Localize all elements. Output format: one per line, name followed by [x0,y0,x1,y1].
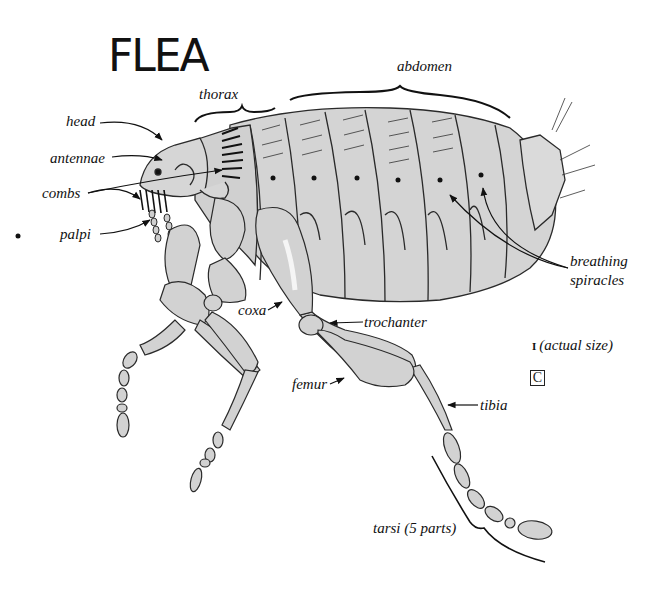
label-combs: combs [42,185,80,202]
head-arrow [100,122,162,140]
scale-icon: I [532,340,536,352]
combs-arrow-1 [88,189,140,199]
label-femur: femur [292,376,327,393]
palpi-arrow [100,220,150,234]
stray-dot [16,234,21,239]
coxa-arrow [268,302,282,310]
label-abdomen: abdomen [397,58,452,75]
label-trochanter: trochanter [364,314,427,331]
label-coxa: coxa [238,302,266,319]
label-antennae: antennae [50,150,105,167]
flea-illustration [0,0,662,589]
label-head: head [66,113,95,130]
femur-arrow [330,378,344,384]
actual-size-label: (actual size) [539,337,613,353]
label-tibia: tibia [480,397,508,414]
label-spiracles: spiracles [570,272,624,289]
label-palpi: palpi [60,226,91,243]
corner-box-mark: C [530,370,545,386]
trochanter-arrow [330,322,363,323]
page-title: FLEA [108,30,208,81]
label-breathing: breathing [570,253,628,270]
label-thorax: thorax [199,86,238,103]
actual-size-note: I(actual size) [532,337,613,354]
label-tarsi: tarsi (5 parts) [373,520,456,537]
